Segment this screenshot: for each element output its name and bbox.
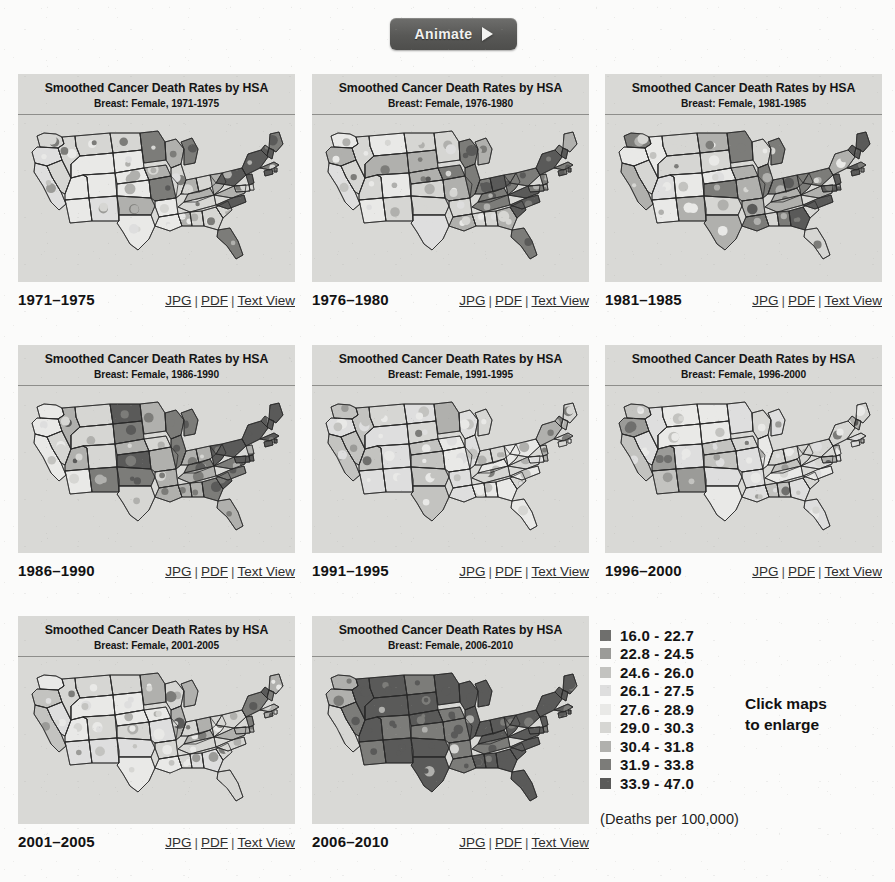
map-header: Smoothed Cancer Death Rates by HSABreast… [312,74,589,109]
click-note-line: to enlarge [745,715,885,736]
map-caption: 1986–1990JPG|PDF|Text View [18,562,295,582]
map-format-links: JPG|PDF|Text View [165,835,295,850]
legend-range-label: 31.9 - 33.8 [620,756,694,773]
map-year-range: 2006–2010 [312,833,389,850]
link-separator: | [485,564,495,579]
map-thumbnail[interactable]: Smoothed Cancer Death Rates by HSABreast… [18,616,295,824]
map-format-links: JPG|PDF|Text View [459,564,589,579]
choropleth-us-map[interactable] [18,393,295,553]
pdf-link[interactable]: PDF [201,293,228,308]
map-header: Smoothed Cancer Death Rates by HSABreast… [18,74,295,109]
choropleth-us-map[interactable] [312,664,589,824]
legend-color-swatch [600,759,611,770]
header-divider [312,656,589,657]
legend-row: 33.9 - 47.0 [600,774,750,793]
choropleth-us-map[interactable] [605,122,882,282]
legend-row: 31.9 - 33.8 [600,756,750,775]
map-thumbnail[interactable]: Smoothed Cancer Death Rates by HSABreast… [312,616,589,824]
map-header: Smoothed Cancer Death Rates by HSABreast… [18,616,295,651]
map-title: Smoothed Cancer Death Rates by HSA [312,352,589,366]
map-thumbnail[interactable]: Smoothed Cancer Death Rates by HSABreast… [605,345,882,553]
map-subtitle: Breast: Female, 1976-1980 [312,98,589,109]
map-thumbnail[interactable]: Smoothed Cancer Death Rates by HSABreast… [312,74,589,282]
header-divider [18,114,295,115]
pdf-link[interactable]: PDF [495,835,522,850]
legend-row: 30.4 - 31.8 [600,737,750,756]
legend-range-label: 30.4 - 31.8 [620,738,694,755]
legend-row: 16.0 - 22.7 [600,626,750,645]
map-title: Smoothed Cancer Death Rates by HSA [312,623,589,637]
map-format-links: JPG|PDF|Text View [459,835,589,850]
legend-range-label: 33.9 - 47.0 [620,775,694,792]
click-to-enlarge-note: Click mapsto enlarge [745,694,885,736]
map-title: Smoothed Cancer Death Rates by HSA [18,623,295,637]
map-subtitle: Breast: Female, 1971-1975 [18,98,295,109]
header-divider [18,656,295,657]
map-title: Smoothed Cancer Death Rates by HSA [605,352,882,366]
map-year-range: 1971–1975 [18,291,95,308]
legend-color-swatch [600,722,611,733]
map-thumbnail[interactable]: Smoothed Cancer Death Rates by HSABreast… [18,74,295,282]
jpg-link[interactable]: JPG [459,564,485,579]
jpg-link[interactable]: JPG [165,835,191,850]
map-caption: 1996–2000JPG|PDF|Text View [605,562,882,582]
pdf-link[interactable]: PDF [201,564,228,579]
link-separator: | [191,835,201,850]
map-subtitle: Breast: Female, 2006-2010 [312,640,589,651]
map-header: Smoothed Cancer Death Rates by HSABreast… [605,74,882,109]
header-divider [18,385,295,386]
text-view-link[interactable]: Text View [824,564,882,579]
map-year-range: 1981–1985 [605,291,682,308]
map-header: Smoothed Cancer Death Rates by HSABreast… [312,345,589,380]
jpg-link[interactable]: JPG [165,293,191,308]
jpg-link[interactable]: JPG [752,293,778,308]
map-caption: 1976–1980JPG|PDF|Text View [312,291,589,311]
header-divider [605,114,882,115]
map-thumbnail[interactable]: Smoothed Cancer Death Rates by HSABreast… [312,345,589,553]
map-subtitle: Breast: Female, 1991-1995 [312,369,589,380]
text-view-link[interactable]: Text View [237,293,295,308]
choropleth-us-map[interactable] [18,664,295,824]
map-thumbnail[interactable]: Smoothed Cancer Death Rates by HSABreast… [605,74,882,282]
header-divider [312,385,589,386]
pdf-link[interactable]: PDF [788,293,815,308]
choropleth-us-map[interactable] [605,393,882,553]
animate-button[interactable]: Animate [390,18,517,50]
map-thumbnail[interactable]: Smoothed Cancer Death Rates by HSABreast… [18,345,295,553]
map-cell-1981-1985: Smoothed Cancer Death Rates by HSABreast… [605,74,882,311]
map-year-range: 1986–1990 [18,562,95,579]
text-view-link[interactable]: Text View [824,293,882,308]
choropleth-us-map[interactable] [312,122,589,282]
pdf-link[interactable]: PDF [201,835,228,850]
legend-range-label: 26.1 - 27.5 [620,682,694,699]
choropleth-us-map[interactable] [18,122,295,282]
pdf-link[interactable]: PDF [495,564,522,579]
map-format-links: JPG|PDF|Text View [459,293,589,308]
jpg-link[interactable]: JPG [459,835,485,850]
text-view-link[interactable]: Text View [237,564,295,579]
text-view-link[interactable]: Text View [531,293,589,308]
legend-color-swatch [600,685,611,696]
jpg-link[interactable]: JPG [459,293,485,308]
map-caption: 1991–1995JPG|PDF|Text View [312,562,589,582]
text-view-link[interactable]: Text View [237,835,295,850]
map-cell-1986-1990: Smoothed Cancer Death Rates by HSABreast… [18,345,295,582]
map-cell-1976-1980: Smoothed Cancer Death Rates by HSABreast… [312,74,589,311]
map-year-range: 1991–1995 [312,562,389,579]
text-view-link[interactable]: Text View [531,835,589,850]
jpg-link[interactable]: JPG [752,564,778,579]
pdf-link[interactable]: PDF [788,564,815,579]
choropleth-us-map[interactable] [312,393,589,553]
legend-range-label: 27.6 - 28.9 [620,701,694,718]
text-view-link[interactable]: Text View [531,564,589,579]
map-title: Smoothed Cancer Death Rates by HSA [605,81,882,95]
jpg-link[interactable]: JPG [165,564,191,579]
click-note-line: Click maps [745,694,885,715]
legend-row: 27.6 - 28.9 [600,700,750,719]
legend-color-swatch [600,778,611,789]
map-caption: 1971–1975JPG|PDF|Text View [18,291,295,311]
map-year-range: 2001–2005 [18,833,95,850]
link-separator: | [485,293,495,308]
map-caption: 1981–1985JPG|PDF|Text View [605,291,882,311]
pdf-link[interactable]: PDF [495,293,522,308]
